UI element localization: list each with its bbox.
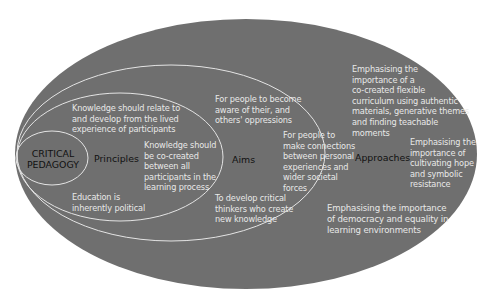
aim-item: For people to make connections between p… — [283, 130, 355, 194]
principles-label: Principles — [94, 153, 139, 164]
aim-item: To develop critical thinkers who create … — [215, 193, 293, 225]
approach-item: Emphasising the importance of a co-creat… — [352, 64, 469, 138]
approaches-label: Approaches — [355, 152, 410, 163]
aim-item: For people to become aware of their, and… — [215, 94, 301, 126]
aims-label: Aims — [232, 154, 255, 165]
approach-item: Emphasising the importance of democracy … — [327, 203, 448, 237]
principle-item: Knowledge should be co-created between a… — [144, 140, 216, 193]
critical-pedagogy-line1: CRITICAL — [23, 148, 83, 159]
approach-item: Emphasising the importance of cultivatin… — [410, 137, 476, 190]
principle-item: Knowledge should relate to and develop f… — [72, 103, 180, 135]
critical-pedagogy-label: CRITICAL PEDAGOGY — [23, 148, 83, 170]
critical-pedagogy-line2: PEDAGOGY — [23, 159, 83, 170]
principle-item: Education is inherently political — [72, 192, 145, 213]
